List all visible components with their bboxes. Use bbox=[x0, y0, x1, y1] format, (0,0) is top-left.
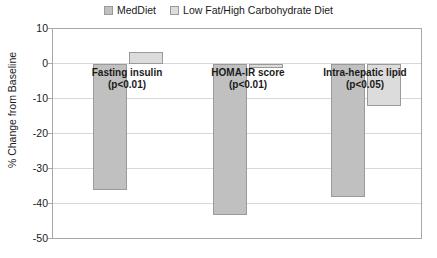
legend-item-meddiet: MedDiet bbox=[104, 5, 156, 16]
bar-meddiet-homa-ir bbox=[213, 64, 247, 215]
legend-item-lowfat: Low Fat/High Carbohydrate Diet bbox=[170, 5, 333, 16]
bar-lowfat-homa-ir bbox=[249, 64, 283, 68]
y-tick-10: 10 bbox=[4, 23, 48, 33]
group-label-homa-ir: HOMA-IR score (p<0.01) bbox=[183, 67, 313, 91]
group-label-intrahepatic-lipid: Intra-hepatic lipid (p<0.05) bbox=[298, 67, 432, 91]
bar-lowfat-intrahepatic-lipid bbox=[367, 64, 401, 106]
y-tick-neg50: -50 bbox=[4, 233, 48, 243]
group-label-intrahepatic-lipid-line1: Intra-hepatic lipid bbox=[298, 67, 432, 79]
legend-swatch-lowfat bbox=[170, 6, 179, 15]
legend-label-meddiet: MedDiet bbox=[117, 5, 156, 16]
legend-label-lowfat: Low Fat/High Carbohydrate Diet bbox=[183, 5, 333, 16]
bar-meddiet-fasting-insulin bbox=[93, 64, 127, 190]
bar-meddiet-intrahepatic-lipid bbox=[331, 64, 365, 197]
group-label-fasting-insulin-line1: Fasting insulin bbox=[62, 67, 192, 79]
group-label-intrahepatic-lipid-line2: (p<0.05) bbox=[298, 79, 432, 91]
group-label-homa-ir-line1: HOMA-IR score bbox=[183, 67, 313, 79]
group-label-homa-ir-line2: (p<0.01) bbox=[183, 79, 313, 91]
y-tick-neg40: -40 bbox=[4, 198, 48, 208]
group-label-fasting-insulin-line2: (p<0.01) bbox=[62, 79, 192, 91]
bar-lowfat-fasting-insulin bbox=[129, 52, 163, 64]
y-axis-label: % Change from Baseline bbox=[6, 35, 18, 185]
legend-swatch-meddiet bbox=[104, 6, 113, 15]
chart-legend: MedDiet Low Fat/High Carbohydrate Diet bbox=[0, 5, 437, 16]
plot-area: Fasting insulin (p<0.01) HOMA-IR score (… bbox=[52, 28, 422, 239]
group-label-fasting-insulin: Fasting insulin (p<0.01) bbox=[62, 67, 192, 91]
chart-container: MedDiet Low Fat/High Carbohydrate Diet 1… bbox=[0, 0, 437, 258]
